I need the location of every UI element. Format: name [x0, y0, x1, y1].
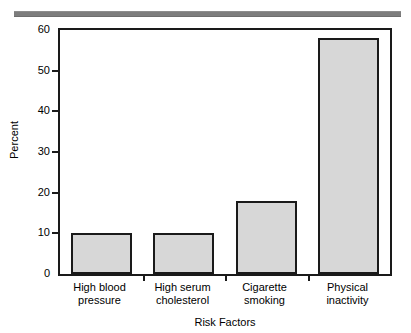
x-axis-tick [225, 276, 227, 281]
y-axis-tick [52, 70, 59, 72]
y-axis-tick-label: 50 [4, 65, 50, 76]
x-axis-category-labels: High bloodpressureHigh serumcholesterolC… [58, 281, 392, 313]
category-label-line-1: Cigarette [223, 281, 306, 294]
x-axis-category-label: Physicalinactivity [306, 281, 389, 307]
top-decorative-rule [14, 11, 401, 17]
x-axis-category-label: Cigarettesmoking [223, 281, 306, 307]
y-axis-tick-label: 60 [4, 24, 50, 35]
category-label-line-2: smoking [223, 294, 306, 307]
bar [153, 233, 214, 274]
y-axis-tick-label: 10 [4, 227, 50, 238]
x-axis-tick [308, 276, 310, 281]
x-axis-title: Risk Factors [58, 316, 392, 328]
category-label-line-1: High serum [141, 281, 224, 294]
bar-chart-figure: 0102030405060 Percent High bloodpressure… [0, 0, 411, 333]
y-axis-tick [52, 192, 59, 194]
bar [71, 233, 132, 274]
y-axis-tick-label: 0 [4, 268, 50, 279]
category-label-line-2: cholesterol [141, 294, 224, 307]
category-label-line-2: pressure [58, 294, 141, 307]
y-axis-title: Percent [8, 110, 20, 170]
category-label-line-1: Physical [306, 281, 389, 294]
x-axis-category-label: High bloodpressure [58, 281, 141, 307]
bar [318, 38, 379, 274]
y-axis-tick [52, 151, 59, 153]
y-axis-tick [52, 110, 59, 112]
x-axis-tick [143, 276, 145, 281]
y-axis-tick-label: 20 [4, 187, 50, 198]
y-axis-tick [52, 232, 59, 234]
category-label-line-2: inactivity [306, 294, 389, 307]
bar [236, 201, 297, 274]
category-label-line-1: High blood [58, 281, 141, 294]
x-axis-category-label: High serumcholesterol [141, 281, 224, 307]
